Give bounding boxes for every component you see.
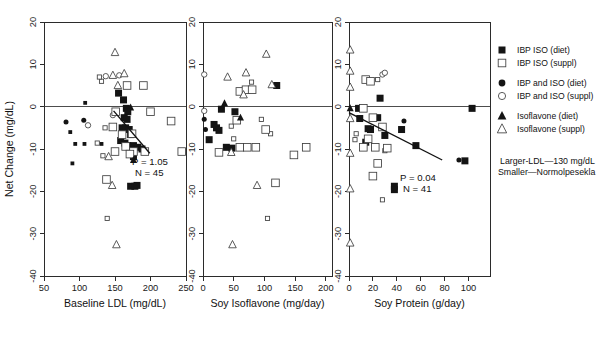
panels-group: 20100-10-20-30-4050100150200250Baseline … bbox=[3, 17, 490, 309]
data-point-filled-square bbox=[73, 142, 77, 146]
series-open-square-large bbox=[360, 76, 391, 180]
data-point-open-triangle bbox=[346, 46, 354, 53]
x-axis-title: Baseline LDL (mg/dL) bbox=[64, 297, 166, 309]
data-point-open-square bbox=[109, 123, 117, 131]
y-tick-label: 10 bbox=[187, 59, 197, 69]
y-tick-label: -20 bbox=[187, 185, 197, 198]
data-point-open-square bbox=[103, 126, 107, 130]
data-point-open-square bbox=[364, 135, 372, 143]
filled-triangle-icon bbox=[498, 111, 507, 120]
legend-item-label: IBP and ISO (suppl) bbox=[517, 91, 593, 101]
data-point-filled-circle bbox=[202, 117, 207, 122]
filled-square-icon bbox=[499, 47, 506, 54]
data-point-open-square bbox=[123, 82, 131, 90]
series-open-circle-small bbox=[380, 70, 388, 77]
data-point-filled-square bbox=[100, 142, 104, 146]
y-tick-label: -40 bbox=[187, 269, 197, 282]
x-tick-label: 200 bbox=[318, 283, 334, 293]
data-point-filled-square bbox=[377, 95, 384, 102]
data-point-filled-square bbox=[120, 96, 127, 103]
y-tick-label: -10 bbox=[333, 142, 343, 155]
series-open-square-large bbox=[215, 86, 310, 187]
data-point-filled-square bbox=[381, 132, 388, 139]
data-point-open-circle bbox=[382, 70, 387, 75]
data-point-open-triangle bbox=[120, 69, 128, 76]
y-tick-label: 20 bbox=[28, 17, 38, 27]
legend-item-4[interactable]: Isoflavone (diet) bbox=[498, 111, 579, 121]
data-point-filled-square bbox=[68, 130, 72, 134]
data-point-open-circle bbox=[202, 108, 207, 113]
data-point-filled-square bbox=[469, 105, 476, 112]
data-point-open-square bbox=[122, 143, 130, 151]
x-tick-label: 50 bbox=[229, 283, 239, 293]
legend-item-2[interactable]: IBP and ISO (diet) bbox=[499, 78, 587, 88]
scatter-panels-figure: 20100-10-20-30-4050100150200250Baseline … bbox=[0, 0, 613, 340]
data-point-filled-square bbox=[215, 127, 222, 134]
y-tick-label: 20 bbox=[333, 17, 343, 27]
x-tick-label: 40 bbox=[392, 283, 402, 293]
data-point-open-triangle bbox=[346, 149, 354, 156]
data-point-open-square bbox=[252, 144, 260, 152]
legend-item-5[interactable]: Isoflavone (suppl) bbox=[497, 124, 585, 134]
data-point-open-square bbox=[383, 144, 391, 152]
data-point-open-square bbox=[265, 216, 269, 220]
sample-size-label: N = 41 bbox=[403, 183, 432, 194]
data-point-open-square bbox=[369, 172, 377, 180]
data-point-open-square bbox=[95, 141, 99, 145]
data-point-open-square bbox=[360, 144, 368, 152]
panel-1: 20100-10-20-30-4050100150200250Baseline … bbox=[3, 17, 194, 309]
y-tick-label: 0 bbox=[187, 104, 197, 109]
x-tick-label: 80 bbox=[439, 283, 449, 293]
x-tick-label: 150 bbox=[107, 283, 123, 293]
x-tick-label: 100 bbox=[257, 283, 273, 293]
data-point-filled-square bbox=[367, 126, 374, 133]
data-point-open-square bbox=[371, 144, 379, 152]
x-tick-label: 50 bbox=[39, 283, 49, 293]
y-tick-label: -40 bbox=[28, 269, 38, 282]
data-point-open-square bbox=[353, 138, 357, 142]
y-axis-title: Net Change (mg/dL) bbox=[3, 101, 15, 197]
legend-item-label: Isoflavone (diet) bbox=[517, 111, 578, 121]
panel-3: 20100-10-20-30-40020406080100Soy Protein… bbox=[333, 17, 490, 309]
data-point-open-triangle bbox=[346, 239, 354, 246]
data-point-open-triangle bbox=[229, 240, 237, 247]
series-filled-circle-small bbox=[401, 119, 461, 163]
y-tick-label: -10 bbox=[28, 142, 38, 155]
data-point-filled-square bbox=[391, 186, 398, 193]
y-tick-label: 10 bbox=[28, 59, 38, 69]
data-point-open-triangle bbox=[109, 71, 117, 78]
y-tick-label: -20 bbox=[333, 185, 343, 198]
legend-item-label: IBP ISO (diet) bbox=[517, 45, 570, 55]
legend-item-1[interactable]: IBP ISO (suppl) bbox=[498, 58, 576, 68]
data-point-open-square bbox=[236, 144, 244, 152]
legend-item-label: Isoflavone (suppl) bbox=[517, 124, 585, 134]
annotation-line-1: Larger-LDL—130 mg/dL bbox=[500, 156, 595, 166]
legend-item-label: IBP and ISO (diet) bbox=[517, 78, 587, 88]
data-point-filled-circle bbox=[81, 118, 86, 123]
legend-group: IBP ISO (diet)IBP ISO (suppl)IBP and ISO… bbox=[497, 45, 593, 134]
x-tick-label: 60 bbox=[416, 283, 426, 293]
data-point-open-square bbox=[367, 77, 375, 85]
y-tick-label: -30 bbox=[333, 227, 343, 240]
legend-item-0[interactable]: IBP ISO (diet) bbox=[499, 45, 570, 55]
data-point-open-triangle bbox=[346, 114, 354, 121]
filled-circle-icon bbox=[499, 80, 506, 87]
data-point-filled-square bbox=[398, 126, 405, 133]
x-tick-label: 100 bbox=[72, 283, 88, 293]
data-point-open-square bbox=[215, 149, 223, 157]
data-point-open-square bbox=[103, 176, 111, 184]
data-point-open-square bbox=[259, 117, 263, 121]
legend-item-3[interactable]: IBP and ISO (suppl) bbox=[498, 91, 593, 101]
data-point-open-square bbox=[232, 137, 236, 141]
series-open-circle-small bbox=[202, 72, 207, 114]
figure-container: 20100-10-20-30-4050100150200250Baseline … bbox=[0, 0, 613, 340]
p-value-label: P = 0.04 bbox=[400, 172, 436, 183]
x-axis-title: Soy Protein (g/day) bbox=[374, 297, 465, 309]
data-point-open-square bbox=[105, 216, 109, 220]
data-point-filled-triangle bbox=[221, 99, 228, 106]
x-tick-label: 0 bbox=[346, 283, 351, 293]
regression-fit-line bbox=[349, 113, 442, 160]
open-triangle-icon bbox=[497, 124, 506, 133]
x-tick-label: 20 bbox=[368, 283, 378, 293]
data-point-open-triangle bbox=[346, 67, 354, 74]
